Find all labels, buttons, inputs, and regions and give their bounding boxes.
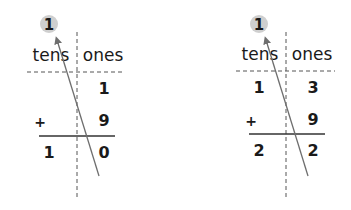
- sum-tens: 2: [253, 141, 264, 160]
- ones-header: ones: [83, 45, 124, 65]
- carry-digit: 1: [44, 16, 54, 34]
- plus-operator: +: [34, 114, 46, 130]
- addend2-ones: 9: [307, 110, 318, 129]
- problem-2: 1 tens ones 1 3 + 9 2 2: [236, 15, 335, 198]
- addend1-ones: 3: [307, 78, 318, 97]
- addend1-tens: 1: [253, 78, 264, 97]
- addend1-ones: 1: [98, 79, 109, 98]
- place-value-addition-diagram: 1 tens ones 1 + 9 1 0 1 tens ones 1 3 + …: [0, 0, 351, 210]
- sum-tens: 1: [43, 143, 54, 162]
- addend2-ones: 9: [98, 111, 109, 130]
- sum-ones: 2: [307, 141, 318, 160]
- ones-header: ones: [292, 44, 333, 64]
- sum-ones: 0: [98, 143, 109, 162]
- plus-operator: +: [245, 113, 257, 129]
- problem-1: 1 tens ones 1 + 9 1 0: [27, 15, 125, 198]
- carry-digit: 1: [254, 16, 264, 34]
